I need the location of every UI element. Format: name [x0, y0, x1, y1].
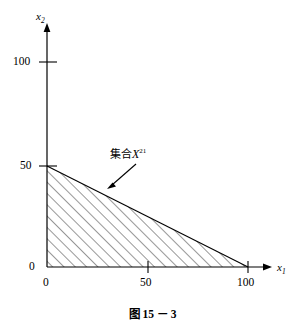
figure-caption-number: 15 － 3 [142, 308, 176, 320]
y-tick-label-50: 50 [20, 160, 32, 172]
annotation-arrow [107, 164, 136, 189]
y-tick-label-0: 0 [29, 261, 35, 273]
x-axis-arrowhead [263, 264, 272, 271]
figure-caption: 图 15 － 3 [0, 305, 305, 321]
y-axis-ticks [39, 62, 57, 166]
y-axis-name: x2 [36, 11, 45, 25]
set-annotation-superscript: 21 [139, 147, 146, 155]
set-annotation-cjk: 集合 [110, 148, 132, 161]
x-axis-name: x1 [277, 262, 286, 276]
feasible-region [47, 166, 248, 267]
figure-caption-cjk: 图 [129, 307, 140, 321]
set-annotation-label: 集合X21 [110, 148, 146, 161]
x-tick-label-0: 0 [43, 277, 49, 289]
figure-container: x2 x1 100 50 0 0 50 100 集合X21 图 15 － 3 [0, 0, 305, 333]
x-tick-label-50: 50 [140, 277, 152, 289]
y-axis-name-subscript: 2 [41, 16, 45, 25]
x-axis-name-subscript: 1 [282, 267, 286, 276]
x-tick-label-100: 100 [237, 277, 254, 289]
y-tick-label-100: 100 [13, 56, 30, 68]
